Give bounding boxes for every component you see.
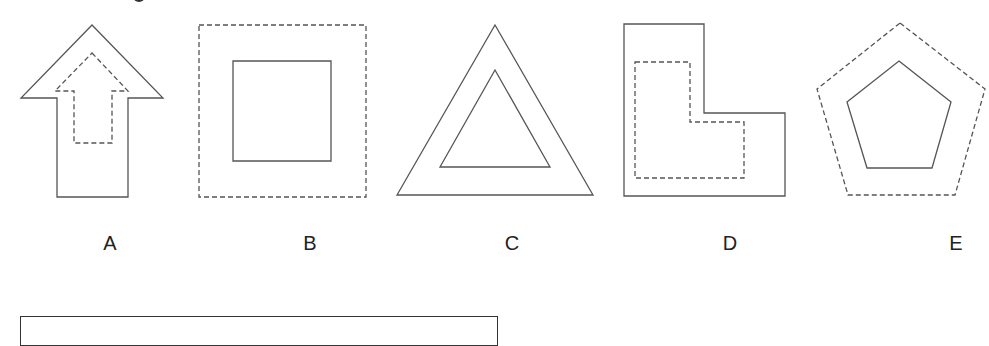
figure-d-inner-l-shape (635, 62, 744, 178)
figure-a-inner-arrow (55, 53, 128, 143)
answer-box (20, 316, 498, 346)
figure-c-inner-triangle (440, 70, 550, 167)
figure-label-d: D (723, 233, 737, 253)
figure-c-outer-triangle (397, 25, 593, 195)
figure-d-l-shape (624, 24, 785, 196)
figure-b-inner-square (233, 61, 331, 161)
figure-a-outer-arrow (21, 25, 163, 197)
figure-b-square (199, 25, 366, 197)
figure-e-outer-pentagon (817, 23, 985, 195)
figure-a-arrow (21, 25, 163, 197)
figure-label-e: E (949, 233, 962, 253)
figure-e-inner-pentagon (847, 61, 951, 168)
figure-label-b: B (303, 233, 316, 253)
figure-label-a: A (103, 233, 116, 253)
figure-label-c: C (505, 233, 519, 253)
figure-e-pentagon (817, 23, 985, 195)
figure-c-triangle (397, 25, 593, 195)
figure-b-outer-square (199, 25, 366, 197)
figure-d-outer-l-shape (624, 24, 785, 196)
